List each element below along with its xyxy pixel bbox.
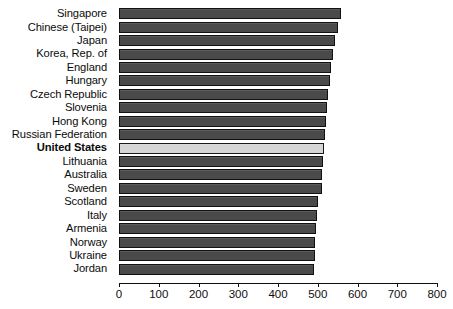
bar-row: [119, 101, 437, 114]
category-label: Norway: [0, 235, 113, 248]
bar-chart: SingaporeChinese (Taipei)JapanKorea, Rep…: [0, 0, 453, 309]
category-label-text: Scotland: [64, 196, 107, 207]
x-axis-tick: [437, 283, 438, 287]
x-axis-tick: [278, 283, 279, 287]
bar-row: [119, 195, 437, 208]
bar-row: [119, 235, 437, 248]
bar: [119, 89, 328, 100]
category-label: Lithuania: [0, 155, 113, 168]
category-label-text: Slovenia: [65, 102, 107, 113]
bar: [119, 49, 333, 60]
category-label-text: Singapore: [57, 8, 107, 19]
bar-row: [119, 47, 437, 60]
category-label: Ukraine: [0, 249, 113, 262]
bar-row: [119, 141, 437, 154]
category-label-text: Sweden: [67, 183, 107, 194]
x-axis-tick-label: 300: [229, 288, 248, 300]
category-label-text: Czech Republic: [30, 89, 107, 100]
category-label: Italy: [0, 209, 113, 222]
category-label: Japan: [0, 34, 113, 47]
bar: [119, 102, 327, 113]
category-label: Korea, Rep. of: [0, 47, 113, 60]
category-label: England: [0, 61, 113, 74]
category-label: Russian Federation: [0, 128, 113, 141]
category-label-text: Australia: [64, 169, 107, 180]
bar: [119, 156, 323, 167]
category-label-text: Italy: [87, 210, 107, 221]
category-label: Australia: [0, 168, 113, 181]
bar: [119, 196, 318, 207]
x-axis-tick: [119, 283, 120, 287]
category-label: Hungary: [0, 74, 113, 87]
x-axis-tick: [358, 283, 359, 287]
bar: [119, 183, 322, 194]
category-label-text: Ukraine: [69, 250, 107, 261]
bar: [119, 22, 338, 33]
bar-row: [119, 7, 437, 20]
bar: [119, 169, 322, 180]
category-label-text: Jordan: [73, 263, 107, 274]
bar-row: [119, 249, 437, 262]
bar-row: [119, 128, 437, 141]
category-label: Sweden: [0, 182, 113, 195]
category-label: Jordan: [0, 262, 113, 275]
category-label: Chinese (Taipei): [0, 20, 113, 33]
x-axis-tick-label: 800: [427, 288, 446, 300]
x-axis-tick: [318, 283, 319, 287]
x-axis-tick-label: 100: [149, 288, 168, 300]
bar-row: [119, 61, 437, 74]
category-label: Scotland: [0, 195, 113, 208]
x-axis-tick-label: 500: [308, 288, 327, 300]
x-axis-tick: [199, 283, 200, 287]
bar: [119, 75, 330, 86]
x-axis-tick-label: 400: [268, 288, 287, 300]
bar: [119, 35, 335, 46]
x-axis-tick: [159, 283, 160, 287]
bar-row: [119, 20, 437, 33]
bar-row: [119, 209, 437, 222]
bar: [119, 8, 341, 19]
bar-highlighted: [119, 143, 324, 154]
category-label: Armenia: [0, 222, 113, 235]
category-label-text: England: [67, 62, 107, 73]
category-label-text: Russian Federation: [12, 129, 107, 140]
category-label-text: Hungary: [65, 75, 107, 86]
category-label-text: Norway: [70, 237, 107, 248]
bar: [119, 264, 314, 275]
x-axis-tick-label: 600: [348, 288, 367, 300]
bar-row: [119, 262, 437, 275]
x-axis-tick-label: 700: [388, 288, 407, 300]
bar: [119, 250, 315, 261]
category-label: Slovenia: [0, 101, 113, 114]
bar-row: [119, 222, 437, 235]
category-label-text: Chinese (Taipei): [28, 22, 107, 33]
x-axis-tick-label: 0: [116, 288, 122, 300]
category-label-text: Hong Kong: [52, 116, 107, 127]
plot-area: [119, 7, 437, 289]
bar: [119, 237, 315, 248]
category-label-text: Japan: [77, 35, 107, 46]
bar: [119, 116, 326, 127]
bar-row: [119, 34, 437, 47]
category-label-text: United States: [37, 142, 107, 153]
bar: [119, 62, 331, 73]
bar-row: [119, 182, 437, 195]
category-label: Singapore: [0, 7, 113, 20]
category-label-column: SingaporeChinese (Taipei)JapanKorea, Rep…: [0, 7, 113, 276]
bar: [119, 129, 325, 140]
category-label-text: Korea, Rep. of: [36, 48, 107, 59]
bar: [119, 210, 317, 221]
category-label: Hong Kong: [0, 115, 113, 128]
category-label-text: Lithuania: [62, 156, 107, 167]
bar-row: [119, 168, 437, 181]
category-label-text: Armenia: [66, 223, 107, 234]
category-label: Czech Republic: [0, 88, 113, 101]
bar-row: [119, 74, 437, 87]
bar: [119, 223, 316, 234]
x-axis-tick: [238, 283, 239, 287]
bar-row: [119, 88, 437, 101]
bar-row: [119, 155, 437, 168]
bar-row: [119, 115, 437, 128]
x-axis-tick: [397, 283, 398, 287]
x-axis-tick-label: 200: [189, 288, 208, 300]
